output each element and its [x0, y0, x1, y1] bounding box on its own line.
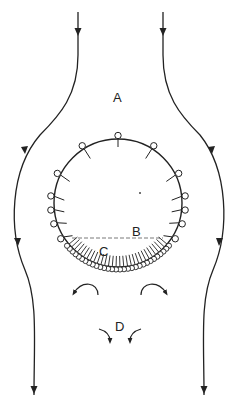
- cilium-tip: [175, 170, 181, 176]
- cilium-stalk: [112, 256, 113, 267]
- arrow-down-icon: [75, 28, 82, 36]
- label-d: D: [115, 319, 124, 334]
- cilium-stalk: [60, 175, 69, 182]
- cilium-stalk: [64, 236, 73, 237]
- cilium-tip: [48, 207, 54, 213]
- cilium-tip: [48, 193, 54, 199]
- arrow-down-icon: [31, 386, 38, 394]
- cilium-stalk: [172, 210, 182, 212]
- cilium-tip: [179, 221, 185, 227]
- arrow-down-icon: [201, 386, 208, 394]
- upper-cilia: [48, 132, 189, 242]
- cilium-tip: [182, 193, 188, 199]
- cilium-stalk: [129, 255, 131, 266]
- cilium-stalk: [84, 149, 90, 159]
- cilium-stalk: [94, 252, 98, 262]
- label-c: C: [99, 244, 108, 259]
- cilium-stalk: [135, 253, 139, 263]
- cilium-stalk: [54, 210, 64, 212]
- cilium-tip: [51, 221, 57, 227]
- cilium-tip: [54, 170, 60, 176]
- cilium-stalk: [123, 256, 124, 267]
- cilium-stalk: [146, 149, 152, 159]
- arrow-down-icon: [14, 238, 21, 246]
- cilium-stalk: [138, 252, 142, 262]
- label-b: B: [132, 224, 141, 239]
- cilium-tip: [151, 143, 157, 149]
- right-streamline: [160, 12, 224, 395]
- cilium-stalk: [54, 196, 64, 200]
- arrow-down-icon: [208, 146, 215, 154]
- sphere: [54, 139, 182, 267]
- cilium-tip: [182, 207, 188, 213]
- bead: [64, 243, 69, 248]
- cilium-tip: [115, 132, 121, 138]
- cilium-stalk: [57, 223, 67, 224]
- cilium-tip: [172, 236, 178, 242]
- vortex-lower-right: [130, 329, 141, 341]
- cilium-stalk: [163, 236, 172, 237]
- cilium-stalk: [169, 223, 179, 224]
- label-a: A: [113, 90, 122, 105]
- cilium-stalk: [172, 196, 182, 200]
- vortex-lower-left: [99, 329, 110, 341]
- cilium-stalk: [132, 254, 135, 265]
- vortex-upper-left: [74, 284, 98, 295]
- vortex-upper-right: [141, 284, 166, 295]
- cilium-stalk: [108, 255, 110, 266]
- cilium-tip: [58, 236, 64, 242]
- cilium-stalk: [166, 175, 175, 182]
- arrow-down-icon: [160, 28, 167, 36]
- arrow-down-icon: [21, 146, 28, 154]
- cilium-tip: [79, 143, 85, 149]
- cilium-stalk: [126, 255, 128, 266]
- center-dot: [139, 192, 141, 194]
- flow-diagram: A B C D: [0, 0, 234, 401]
- left-streamline: [14, 12, 82, 395]
